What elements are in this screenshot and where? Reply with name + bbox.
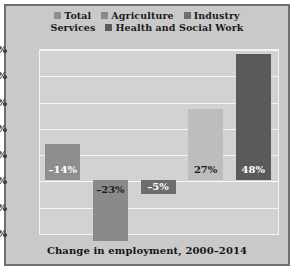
legend-row: Services Health and Social Work (6, 22, 288, 34)
legend-label-services: Services (50, 22, 95, 33)
plot-wrap: 50%40%30%20%10%0%–10%–20% –14%–23%–5%27%… (39, 49, 279, 235)
y-axis-tick-label: –10% (0, 201, 7, 212)
legend-item-health-and-social-work: Health and Social Work (105, 22, 243, 34)
legend-swatch-total (54, 12, 61, 19)
y-axis-tick-label: –20% (0, 228, 7, 239)
chart-caption: Change in employment, 2000–2014 (6, 245, 288, 256)
bar-value-label: 48% (236, 164, 271, 175)
legend-swatch-agriculture (101, 12, 108, 19)
legend-item-total: Total (54, 10, 91, 22)
legend-swatch-health-and-social-work (105, 24, 112, 31)
chart-figure: Total Agriculture Industry Services Heal… (4, 4, 290, 266)
legend-item-services: Services (50, 22, 95, 34)
y-axis-tick-label: 40% (0, 70, 7, 81)
bar-value-label: –5% (141, 181, 176, 192)
gridline (40, 208, 278, 209)
legend-row: Total Agriculture Industry (6, 10, 288, 22)
gridline (40, 50, 278, 51)
y-axis-tick-label: 50% (0, 44, 7, 55)
legend-item-agriculture: Agriculture (101, 10, 173, 22)
legend-label-health-and-social-work: Health and Social Work (115, 22, 243, 33)
chart-legend: Total Agriculture Industry Services Heal… (6, 10, 288, 34)
legend-label-agriculture: Agriculture (111, 10, 173, 21)
y-axis-tick-label: 10% (0, 149, 7, 160)
y-axis-tick-label: 20% (0, 122, 7, 133)
bar-value-label: –23% (93, 184, 128, 195)
legend-swatch-industry (184, 12, 191, 19)
bar-value-label: 27% (188, 164, 223, 175)
legend-item-industry: Industry (184, 10, 240, 22)
bar[interactable] (236, 54, 271, 180)
y-axis-tick-label: 30% (0, 96, 7, 107)
legend-label-total: Total (64, 10, 91, 21)
bar-value-label: –14% (45, 164, 80, 175)
y-axis-tick-label: 0% (0, 175, 7, 186)
legend-label-industry: Industry (194, 10, 240, 21)
gridline (40, 234, 278, 235)
